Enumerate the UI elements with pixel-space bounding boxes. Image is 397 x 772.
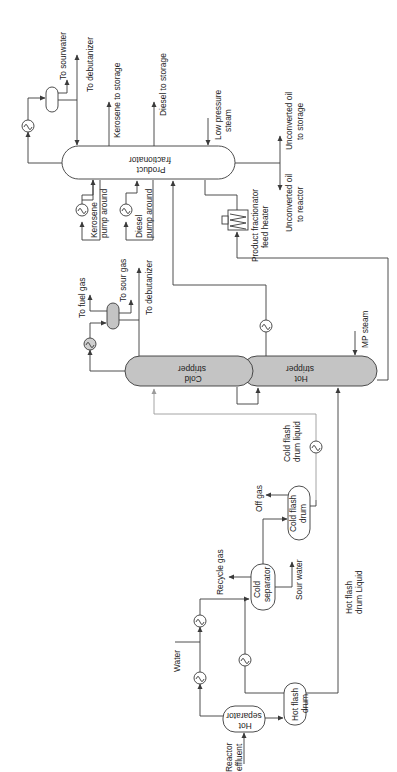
sour-water-label: Sour water xyxy=(294,559,304,600)
stripper-bottoms-loop xyxy=(237,387,258,404)
to-fuel-gas-label: To fuel gas xyxy=(77,277,87,318)
unconverted-oil-reactor-label: Unconverted oil to reactor xyxy=(284,171,305,232)
kerosene-draw: Kerosene to storage xyxy=(109,62,122,146)
hot-stripper: Hot stripper xyxy=(242,356,377,386)
process-flow-diagram: Product fractionator To sourwater To deb… xyxy=(0,0,397,772)
cold-stripper: Cold stripper xyxy=(125,356,253,386)
to-debutanizer-mid-label: To debutanizer xyxy=(144,260,154,315)
hot-flash-drum: Hot flash drum xyxy=(284,683,310,725)
hot-separator-vapor-line: Water xyxy=(172,599,249,716)
cold-flash-drum-liquid-line: Cold flash drum liquid xyxy=(154,389,322,500)
hot-flash-drum-vapor-line xyxy=(239,599,284,693)
fractionator-overhead: To sourwater To debutanizer xyxy=(22,32,95,163)
diesel-draw: Diesel to storage xyxy=(154,53,168,146)
product-fractionator-label: Product fractionator xyxy=(129,155,171,175)
kerosene-pump-around-label: Kerosene pump around xyxy=(89,188,109,238)
hot-separator: Hot separator Reactor effluent xyxy=(223,706,283,772)
diesel-to-storage-label: Diesel to storage xyxy=(158,53,168,116)
to-sour-gas-label: To sour gas xyxy=(118,259,128,302)
kerosene-pump-around: Kerosene pump around xyxy=(76,180,109,240)
water-label: Water xyxy=(172,650,182,672)
off-gas-label: Off gas xyxy=(254,485,264,512)
feed-heater-stack xyxy=(222,216,228,224)
hot-flash-drum-liquid-line: Hot flash drum Liquid xyxy=(306,388,364,693)
low-pressure-steam-label: Low pressure steam xyxy=(213,87,233,140)
cold-stripper-overhead: To fuel gas To sour gas To debutanizer xyxy=(77,259,154,371)
overhead-drum xyxy=(46,87,58,112)
mp-steam-label: MP steam xyxy=(360,310,370,348)
recycle-gas-label: Recycle gas xyxy=(215,549,225,595)
unconverted-oil-storage-label: Unconverted oil to storage xyxy=(284,89,305,150)
to-sourwater-label: To sourwater xyxy=(58,32,68,80)
diesel-pump-around-label: Diesel pump around xyxy=(134,188,154,238)
cold-flash-drum-liquid-label: Cold flash drum liquid xyxy=(282,421,302,462)
feed-heater-label: Product fractionator feed heater xyxy=(250,187,270,262)
hot-flash-drum-liquid-label: Hot flash drum Liquid xyxy=(344,570,364,614)
diesel-pump-around: Diesel pump around xyxy=(120,180,154,240)
kerosene-to-storage-label: Kerosene to storage xyxy=(112,62,122,138)
to-debutanizer-top-label: To debutanizer xyxy=(85,37,95,92)
mp-steam: MP steam xyxy=(355,310,370,355)
low-pressure-steam: Low pressure steam xyxy=(208,87,233,145)
product-fractionator: Product fractionator xyxy=(62,146,235,179)
cold-stripper-drum xyxy=(107,303,119,329)
reactor-effluent-label: Reactor effluent xyxy=(224,740,244,772)
